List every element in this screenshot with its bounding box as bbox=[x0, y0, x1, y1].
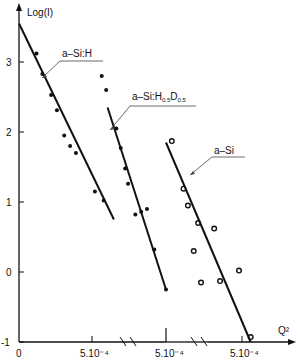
data-point-open bbox=[170, 139, 175, 144]
data-point bbox=[123, 166, 127, 170]
data-point bbox=[133, 213, 137, 217]
data-point bbox=[49, 93, 53, 97]
data-point-open bbox=[181, 186, 186, 191]
y-tick-label: 1 bbox=[6, 197, 12, 208]
data-point-open bbox=[212, 226, 217, 231]
data-point-open bbox=[191, 249, 196, 254]
data-point bbox=[68, 144, 72, 148]
y-tick-label: 3 bbox=[6, 57, 12, 68]
x-tick-label: 5.10⁻⁴ bbox=[155, 348, 184, 359]
y-tick-label: 0 bbox=[6, 267, 12, 278]
data-point bbox=[102, 199, 106, 203]
data-point bbox=[62, 134, 66, 138]
series-label-text: a‒Si bbox=[214, 145, 234, 156]
series-layer bbox=[19, 24, 253, 343]
series-2 bbox=[100, 74, 168, 292]
fit-line bbox=[108, 108, 166, 290]
y-tick-label: -1 bbox=[1, 337, 10, 348]
data-point bbox=[114, 127, 118, 131]
data-point-open bbox=[248, 335, 253, 340]
data-point-open bbox=[218, 279, 223, 284]
x-axis-title: Q² bbox=[278, 325, 290, 336]
data-point bbox=[126, 182, 130, 186]
data-point bbox=[100, 74, 104, 78]
data-point-open bbox=[237, 268, 242, 273]
data-point bbox=[164, 288, 168, 292]
x-tick-label: 0 bbox=[16, 348, 22, 359]
y-axis-title: Log(I) bbox=[27, 7, 53, 18]
data-point bbox=[145, 207, 149, 211]
data-point-open bbox=[196, 221, 201, 226]
label-part: D bbox=[170, 91, 177, 102]
series-label-text: a‒Si:H0.5D0.5 bbox=[132, 91, 187, 103]
fit-line bbox=[166, 143, 251, 343]
label-part: 0.5 bbox=[178, 97, 187, 103]
x-axis-arrow-icon bbox=[288, 339, 296, 345]
series-label-text: a‒Si:H bbox=[62, 48, 92, 59]
data-point bbox=[74, 151, 78, 155]
data-point bbox=[104, 88, 108, 92]
y-axis-arrow-icon bbox=[16, 3, 22, 11]
data-point-open bbox=[199, 280, 204, 285]
series-label-2: a‒Si:H0.5D0.5 bbox=[110, 91, 196, 130]
label-part: a‒Si:H bbox=[132, 91, 162, 102]
x-tick-label: 5.10⁻⁴ bbox=[230, 348, 259, 359]
data-point bbox=[93, 190, 97, 194]
series-label-1: a‒Si:H bbox=[42, 48, 103, 78]
series-3 bbox=[166, 139, 253, 342]
y-tick-label: 2 bbox=[6, 127, 12, 138]
data-point bbox=[152, 248, 156, 252]
data-point-open bbox=[186, 203, 191, 208]
labels-layer: a‒Si:Ha‒Si:H0.5D0.5a‒Si bbox=[42, 48, 245, 175]
chart: Log(I)3210-105.10⁻⁴5.10⁻⁴5.10⁻⁴Q² a‒Si:H… bbox=[0, 0, 298, 360]
data-point bbox=[35, 52, 39, 56]
series-label-3: a‒Si bbox=[190, 145, 245, 175]
data-point bbox=[40, 72, 44, 76]
data-point bbox=[55, 108, 59, 112]
x-tick-label: 5.10⁻⁴ bbox=[80, 348, 109, 359]
axes: Log(I)3210-105.10⁻⁴5.10⁻⁴5.10⁻⁴Q² bbox=[1, 3, 296, 359]
data-point bbox=[139, 210, 143, 214]
data-point bbox=[119, 146, 123, 150]
